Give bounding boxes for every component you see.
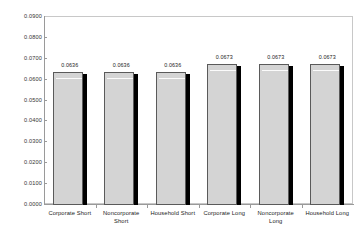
bar: [207, 64, 237, 205]
y-axis-tick-mark: [45, 100, 47, 101]
bar: [104, 72, 134, 205]
bar-column: [53, 16, 87, 205]
bar-highlight-line: [56, 78, 82, 79]
bar-shadow: [83, 74, 87, 205]
bar-value-label: 0.0636: [150, 62, 196, 68]
bar: [310, 64, 340, 205]
x-axis-category-label: Household Short: [149, 210, 197, 218]
bar-highlight-line: [313, 70, 339, 71]
bar-value-label: 0.0673: [201, 54, 247, 60]
y-axis-tick-label: 0.0800: [2, 34, 42, 40]
bar: [53, 72, 83, 205]
bar-column: [156, 16, 190, 205]
bar-value-label: 0.0636: [98, 62, 144, 68]
bar-shadow: [186, 74, 190, 205]
bar-highlight-line: [159, 78, 185, 79]
x-axis-category-label: Corporate Long: [201, 210, 249, 218]
bar-highlight-line: [210, 70, 236, 71]
x-axis-tick-mark: [199, 205, 200, 208]
x-axis-tick-mark: [250, 205, 251, 208]
y-axis-tick-mark: [45, 37, 47, 38]
bar-shadow: [289, 66, 293, 205]
x-axis-category-label: Noncorporate Long: [252, 210, 300, 225]
y-axis-tick-label: 0.0500: [2, 97, 42, 103]
bar-chart: 0.09000.08000.07000.06000.05000.04000.03…: [0, 0, 363, 244]
bar-highlight-line: [262, 70, 288, 71]
y-axis-tick-label: 0.0200: [2, 159, 42, 165]
y-axis-tick-label: 0.0100: [2, 180, 42, 186]
y-axis-tick-label: 0.0400: [2, 117, 42, 123]
bar: [156, 72, 186, 205]
bar-value-label: 0.0673: [253, 54, 299, 60]
bar-column: [207, 16, 241, 205]
y-axis-tick-label: 0.0600: [2, 76, 42, 82]
bar-column: [259, 16, 293, 205]
x-axis-tick-mark: [147, 205, 148, 208]
y-axis-tick-mark: [45, 58, 47, 59]
x-axis-category-label: Corporate Short: [46, 210, 94, 218]
x-axis-tick-mark: [302, 205, 303, 208]
bar-value-label: 0.0673: [304, 54, 350, 60]
bar-column: [310, 16, 344, 205]
bar-shadow: [134, 74, 138, 205]
y-axis-tick-label: 0.0900: [2, 13, 42, 19]
bar-shadow: [340, 66, 344, 205]
y-axis-tick-mark: [45, 120, 47, 121]
y-axis-tick-mark: [45, 79, 47, 80]
y-axis-tick-label: 0.0700: [2, 55, 42, 61]
bar: [259, 64, 289, 205]
bar-column: [104, 16, 138, 205]
bar-value-label: 0.0636: [47, 62, 93, 68]
bar-shadow: [237, 66, 241, 205]
bar-highlight-line: [107, 78, 133, 79]
x-axis-category-label: Noncorporate Short: [98, 210, 146, 225]
y-axis-tick-mark: [45, 183, 47, 184]
x-axis-tick-mark: [96, 205, 97, 208]
y-axis-tick-mark: [45, 141, 47, 142]
bars-layer: [44, 16, 353, 205]
y-axis-tick-mark: [45, 162, 47, 163]
y-axis-tick-label: 0.0000: [2, 201, 42, 207]
x-axis-category-label: Household Long: [304, 210, 352, 218]
y-axis-tick-label: 0.0300: [2, 138, 42, 144]
y-axis-labels: 0.09000.08000.07000.06000.05000.04000.03…: [0, 0, 42, 244]
